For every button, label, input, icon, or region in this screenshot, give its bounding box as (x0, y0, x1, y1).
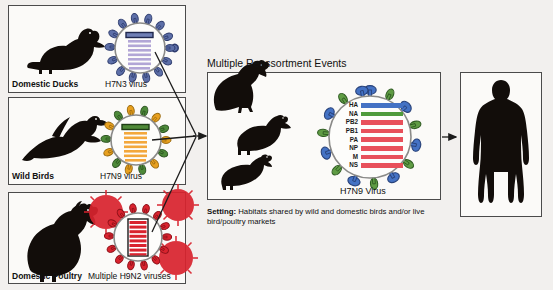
gene-segment-row: PB1 (341, 127, 405, 136)
gene-segment-label: HA (341, 102, 358, 108)
setting-text: Habitats shared by wild and domestic bir… (207, 207, 425, 226)
diagram-canvas: HA NA PB2 PB1 PA NP M NS (0, 0, 553, 290)
panel-human-host (460, 72, 542, 217)
label-wild-birds: Wild Birds (12, 172, 54, 181)
gene-segment-label: NS (341, 162, 358, 168)
gene-segment-bar (361, 129, 403, 134)
gene-segment-label: PB1 (341, 128, 358, 134)
setting-label: Setting: (207, 207, 236, 216)
gene-segment-bar (361, 112, 403, 117)
setting-note: Setting: Habitats shared by wild and dom… (207, 207, 437, 227)
gene-segment-label: PA (341, 137, 358, 143)
gene-segment-bar (361, 155, 403, 160)
panel-reassortment (207, 72, 441, 200)
gene-segment-bar (361, 146, 403, 151)
label-h7n9-virus-wild: H7N9 virus (100, 172, 142, 181)
gene-segment-row: PB2 (341, 118, 405, 127)
label-h7n3-virus: H7N3 virus (105, 80, 147, 89)
gene-segment-row: PA (341, 135, 405, 144)
label-h7n9-virus-main: H7N9 Virus (340, 187, 386, 196)
gene-segment-label: NA (341, 111, 358, 117)
gene-segment-row: NP (341, 144, 405, 153)
diagram-title: Multiple Reassortment Events (207, 57, 346, 69)
gene-segment-label: PB2 (341, 119, 358, 125)
gene-segment-bar (361, 120, 403, 125)
gene-segment-label: NP (341, 145, 358, 151)
gene-segment-row: M (341, 153, 405, 162)
gene-segment-row: NS (341, 161, 405, 170)
label-domestic-poultry: Domestic Poultry (12, 272, 82, 281)
gene-segment-list: HA NA PB2 PB1 PA NP M NS (341, 101, 405, 170)
gene-segment-bar (361, 137, 403, 142)
gene-segment-label: M (341, 154, 358, 160)
gene-segment-bar (361, 103, 403, 108)
gene-segment-row: HA (341, 101, 405, 110)
label-domestic-ducks: Domestic Ducks (12, 80, 78, 89)
gene-segment-bar (361, 163, 403, 168)
label-h9n2-viruses: Multiple H9N2 viruses (88, 272, 171, 281)
gene-segment-row: NA (341, 110, 405, 119)
